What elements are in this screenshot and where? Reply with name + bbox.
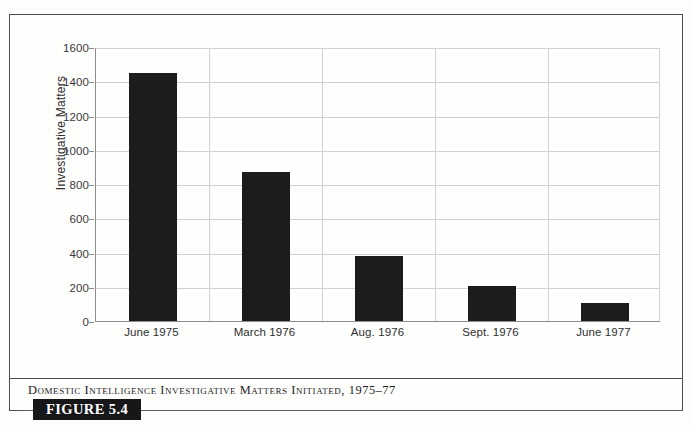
bar: [468, 286, 516, 321]
figure-page: Investigative Matters 160014001200100080…: [0, 0, 693, 425]
y-axis-tick-mark: [89, 185, 94, 186]
y-axis-tick-mark: [89, 151, 94, 152]
gridline-horizontal: [96, 82, 660, 83]
y-axis-tick-mark: [89, 117, 94, 118]
bar: [581, 303, 629, 321]
x-axis-tick-label: Sept. 1976: [434, 326, 547, 338]
gridline-horizontal: [96, 151, 660, 152]
gridline-vertical: [322, 48, 323, 321]
y-axis-tick-mark: [89, 254, 94, 255]
bar-chart: Investigative Matters 160014001200100080…: [9, 14, 683, 378]
bar: [129, 73, 177, 321]
y-axis-tick-mark: [89, 82, 94, 83]
bar: [242, 172, 290, 321]
gridline-vertical: [548, 48, 549, 321]
caption-divider: [9, 378, 683, 379]
y-axis-tick-mark: [89, 322, 94, 323]
gridline-horizontal: [96, 117, 660, 118]
y-axis-tick-marks: [9, 48, 109, 322]
gridline-horizontal: [96, 219, 660, 220]
gridline-horizontal: [96, 254, 660, 255]
y-axis-tick-mark: [89, 288, 94, 289]
y-axis-tick-mark: [89, 219, 94, 220]
figure-number-tag: FIGURE 5.4: [33, 399, 141, 420]
y-axis-tick-mark: [89, 48, 94, 49]
figure-caption: Domestic Intelligence Investigative Matt…: [28, 383, 396, 398]
gridline-vertical: [209, 48, 210, 321]
plot-area: [95, 48, 660, 322]
x-axis-tick-label: June 1977: [547, 326, 660, 338]
gridline-horizontal: [96, 185, 660, 186]
gridline-horizontal: [96, 48, 660, 49]
gridline-vertical: [435, 48, 436, 321]
x-axis-tick-label: Aug. 1976: [321, 326, 434, 338]
bar: [355, 256, 403, 321]
x-axis-tick-label: March 1976: [208, 326, 321, 338]
x-axis-tick-label: June 1975: [95, 326, 208, 338]
